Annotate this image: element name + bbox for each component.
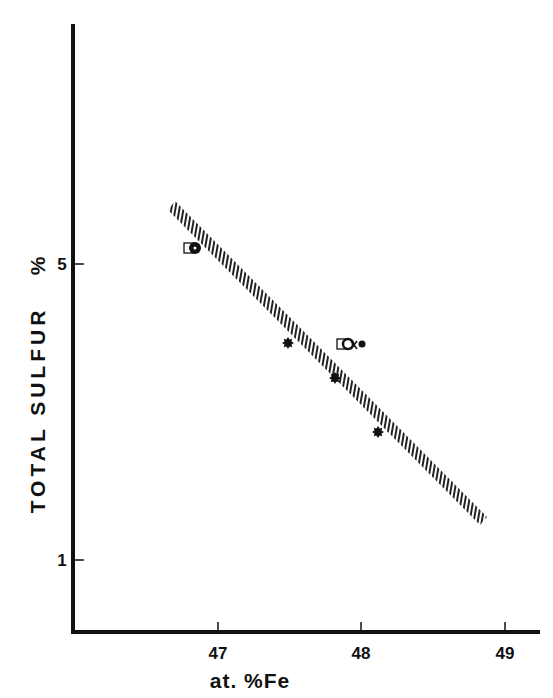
marker-cluster-2 xyxy=(337,339,366,349)
axes xyxy=(71,24,540,633)
y-tick-label-1: 1 xyxy=(57,551,66,570)
y-tick-label-5: 5 xyxy=(57,255,66,274)
x-tick-label-47: 47 xyxy=(209,644,228,663)
chart: 47 48 49 5 1 at. %Fe TOTAL SULFUR % xyxy=(0,0,553,698)
y-axis-title: TOTAL SULFUR xyxy=(26,307,49,514)
trend-band xyxy=(168,201,487,525)
filled-circle-marker xyxy=(359,341,366,348)
star-markers xyxy=(282,337,384,438)
y-axis-unit: % xyxy=(26,253,49,276)
star-marker xyxy=(282,337,294,349)
x-axis-title: at. %Fe xyxy=(210,669,291,692)
x-tick-label-48: 48 xyxy=(352,644,371,663)
inner-dot xyxy=(194,247,197,250)
marker-cluster-1 xyxy=(184,242,201,254)
star-marker xyxy=(372,426,384,438)
x-tick-label-49: 49 xyxy=(496,644,515,663)
